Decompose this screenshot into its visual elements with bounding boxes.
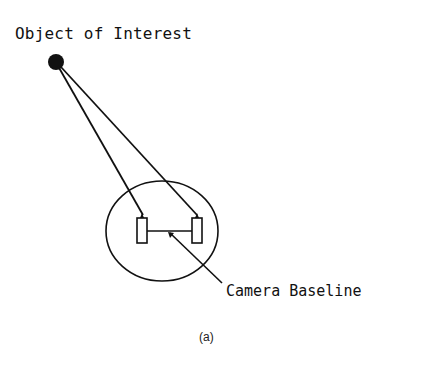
left-camera-lens-icon <box>140 213 144 218</box>
camera-baseline-label: Camera Baseline <box>226 282 361 300</box>
stereo-camera-diagram <box>0 0 429 369</box>
left-camera <box>137 218 147 243</box>
sight-line-right <box>61 67 197 215</box>
right-camera <box>192 218 202 243</box>
sight-line-left <box>58 66 143 215</box>
figure-caption: (a) <box>199 330 214 344</box>
